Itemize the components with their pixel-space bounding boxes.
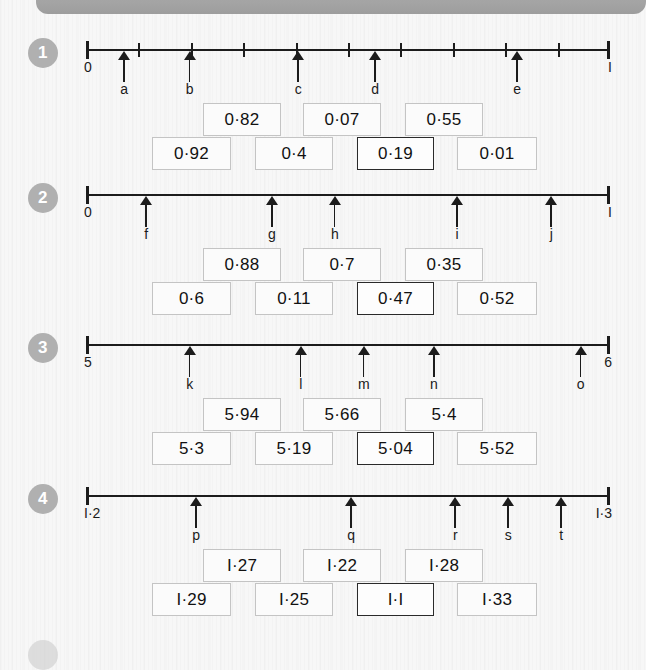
number-line-end-tick bbox=[607, 336, 610, 354]
answer-box[interactable]: 0·55 bbox=[405, 103, 483, 136]
number-line-start-label: 5 bbox=[84, 354, 92, 370]
pointer-shaft bbox=[189, 351, 191, 377]
answer-box[interactable]: I·28 bbox=[405, 549, 483, 582]
answer-box[interactable]: 0·88 bbox=[203, 248, 281, 281]
number-line-axis bbox=[86, 194, 610, 196]
number-line-tick bbox=[400, 43, 402, 57]
pointer-shaft bbox=[560, 502, 562, 528]
number-line-end-tick bbox=[607, 41, 610, 59]
pointer-shaft bbox=[374, 56, 376, 82]
answer-box[interactable]: I·I bbox=[357, 583, 434, 616]
answer-box[interactable]: 5·04 bbox=[357, 432, 434, 465]
page-header-bar bbox=[36, 0, 646, 14]
pointer-shaft bbox=[516, 56, 518, 82]
pointer-shaft bbox=[433, 351, 435, 377]
number-line-start-tick bbox=[86, 336, 89, 354]
number-line-tick bbox=[243, 43, 245, 57]
answer-box[interactable]: 0·92 bbox=[152, 137, 231, 170]
badge-item-5-cutoff bbox=[28, 640, 58, 670]
answer-box[interactable]: 0·47 bbox=[357, 282, 434, 315]
answer-box[interactable]: 5·66 bbox=[303, 398, 381, 431]
exercise-number-badge: 3 bbox=[28, 333, 58, 363]
number-line-start-label: I·2 bbox=[84, 505, 100, 521]
answer-box[interactable]: 0·82 bbox=[203, 103, 281, 136]
number-line-end-tick bbox=[607, 186, 610, 204]
answer-box[interactable]: I·33 bbox=[457, 583, 537, 616]
pointer-shaft bbox=[580, 351, 582, 377]
answer-box[interactable]: 5·94 bbox=[203, 398, 281, 431]
pointer-shaft bbox=[550, 201, 552, 227]
answer-box[interactable]: 5·52 bbox=[457, 432, 537, 465]
number-line-start-label: 0 bbox=[84, 204, 92, 220]
pointer-shaft bbox=[297, 56, 299, 82]
answer-box[interactable]: I·27 bbox=[203, 549, 281, 582]
answer-box[interactable]: 0·01 bbox=[457, 137, 537, 170]
pointer-shaft bbox=[334, 201, 336, 227]
number-line-start-tick bbox=[86, 487, 89, 505]
pointer-label: h bbox=[319, 226, 351, 242]
pointer-label: a bbox=[108, 81, 140, 97]
number-line-start-label: 0 bbox=[84, 59, 92, 75]
pointer-label: j bbox=[535, 226, 567, 242]
answer-box[interactable]: 0·35 bbox=[405, 248, 483, 281]
pointer-label: t bbox=[545, 527, 577, 543]
number-line-start-tick bbox=[86, 41, 89, 59]
answer-box[interactable]: I·25 bbox=[255, 583, 333, 616]
pointer-shaft bbox=[507, 502, 509, 528]
pointer-label: g bbox=[256, 226, 288, 242]
pointer-shaft bbox=[145, 201, 147, 227]
number-line-end-tick bbox=[607, 487, 610, 505]
pointer-label: m bbox=[348, 376, 380, 392]
number-line: 0Iabcde bbox=[86, 49, 610, 50]
exercise-number-badge: 4 bbox=[28, 484, 58, 514]
number-line-tick bbox=[348, 43, 350, 57]
answer-box[interactable]: 0·52 bbox=[457, 282, 537, 315]
answer-box[interactable]: 0·6 bbox=[152, 282, 231, 315]
pointer-shaft bbox=[454, 502, 456, 528]
number-line-end-label: I·3 bbox=[596, 505, 612, 521]
number-line-end-label: 6 bbox=[604, 354, 612, 370]
pointer-label: c bbox=[282, 81, 314, 97]
answer-box[interactable]: 5·3 bbox=[152, 432, 231, 465]
pointer-shaft bbox=[350, 502, 352, 528]
pointer-label: k bbox=[174, 376, 206, 392]
answer-box[interactable]: I·22 bbox=[303, 549, 381, 582]
number-line: 56klmno bbox=[86, 344, 610, 345]
pointer-label: p bbox=[180, 527, 212, 543]
exercise-number-badge: 1 bbox=[28, 38, 58, 68]
answer-box[interactable]: 0·7 bbox=[303, 248, 381, 281]
pointer-shaft bbox=[189, 56, 191, 82]
pointer-label: s bbox=[492, 527, 524, 543]
number-line-tick bbox=[138, 43, 140, 57]
pointer-label: f bbox=[130, 226, 162, 242]
answer-box[interactable]: 0·07 bbox=[303, 103, 381, 136]
pointer-label: r bbox=[439, 527, 471, 543]
number-line: 0Ifghij bbox=[86, 194, 610, 195]
pointer-label: o bbox=[565, 376, 597, 392]
answer-box[interactable]: 0·11 bbox=[255, 282, 333, 315]
pointer-label: n bbox=[418, 376, 450, 392]
answer-box[interactable]: 5·4 bbox=[405, 398, 483, 431]
pointer-shaft bbox=[363, 351, 365, 377]
answer-box[interactable]: 5·19 bbox=[255, 432, 333, 465]
pointer-shaft bbox=[195, 502, 197, 528]
number-line-end-label: I bbox=[608, 204, 612, 220]
answer-box[interactable]: 0·19 bbox=[357, 137, 434, 170]
pointer-shaft bbox=[456, 201, 458, 227]
number-line-axis bbox=[86, 344, 610, 346]
pointer-label: i bbox=[441, 226, 473, 242]
pointer-label: q bbox=[335, 527, 367, 543]
pointer-label: l bbox=[285, 376, 317, 392]
answer-box[interactable]: 0·4 bbox=[255, 137, 333, 170]
pointer-label: e bbox=[501, 81, 533, 97]
pointer-shaft bbox=[123, 56, 125, 82]
answer-box[interactable]: I·29 bbox=[152, 583, 231, 616]
number-line-tick bbox=[505, 43, 507, 57]
number-line-start-tick bbox=[86, 186, 89, 204]
number-line: I·2I·3pqrst bbox=[86, 495, 610, 496]
pointer-shaft bbox=[300, 351, 302, 377]
exercise-number-badge: 2 bbox=[28, 183, 58, 213]
pointer-label: b bbox=[174, 81, 206, 97]
pointer-shaft bbox=[271, 201, 273, 227]
number-line-tick bbox=[558, 43, 560, 57]
